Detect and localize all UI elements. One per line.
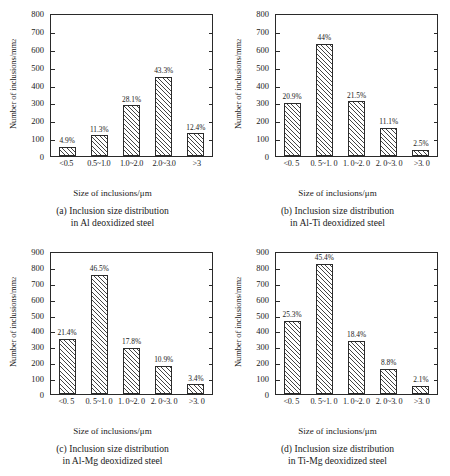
bar-data-label: 2.1% [413, 376, 428, 383]
y-tick-label: 600 [256, 295, 269, 304]
bar-data-label: 25.3% [283, 311, 302, 318]
x-tick-label: 2. 0~3. 0 [373, 159, 406, 168]
y-axis-label-text: Number of inclusions/mm [233, 42, 243, 129]
bar-series-a: 4.9%11.3%28.1%43.3%12.4% [51, 15, 212, 156]
bar-slot: 2.5% [405, 15, 437, 156]
bar [123, 348, 140, 394]
bar-slot: 3.4% [180, 253, 212, 394]
panel-caption-d: (d) Inclusion size distributionin Ti-Mg … [243, 443, 433, 468]
y-tick-label: 500 [256, 63, 269, 72]
y-tick-label: 0 [265, 153, 269, 162]
bar-series-c: 21.4%46.5%17.8%10.9%3.4% [51, 253, 212, 394]
plot-frame-c: 21.4%46.5%17.8%10.9%3.4% [50, 252, 213, 395]
bar-slot: 28.1% [115, 15, 147, 156]
bar-data-label: 11.1% [379, 118, 398, 125]
bar-slot: 12.4% [180, 15, 212, 156]
x-tick-labels-b: <0. 50. 5~1. 01. 0~2. 02. 0~3. 0>3. 0 [275, 159, 438, 168]
y-tick-label: 700 [31, 28, 44, 37]
caption-line-1: (c) Inclusion size distribution [18, 443, 208, 455]
bar-slot: 17.8% [115, 253, 147, 394]
plot-frame-a: 4.9%11.3%28.1%43.3%12.4% [50, 14, 213, 157]
y-tick-label: 500 [256, 311, 269, 320]
caption-line-1: (a) Inclusion size distribution [18, 205, 208, 217]
y-axis-label-superscript: 2 [235, 39, 242, 42]
bar [412, 386, 429, 394]
y-axis-label-d: Number of inclusions/mm2 [231, 248, 245, 396]
y-tick-label: 100 [31, 135, 44, 144]
y-tick-label: 900 [256, 248, 269, 257]
y-tick-label: 400 [256, 81, 269, 90]
y-tick-label: 400 [31, 81, 44, 90]
bar-slot: 43.3% [148, 15, 180, 156]
y-tick-label: 700 [256, 280, 269, 289]
bar [187, 133, 204, 156]
chart-area-a: Number of inclusions/mm20100200300400500… [10, 10, 215, 170]
bar [187, 384, 204, 394]
y-tick-label: 500 [31, 311, 44, 320]
y-tick-label: 300 [31, 343, 44, 352]
bar [412, 150, 429, 156]
bar-slot: 4.9% [51, 15, 83, 156]
bar [59, 147, 76, 156]
bar-slot: 20.9% [276, 15, 308, 156]
y-tick-label: 0 [40, 153, 44, 162]
chart-panel-d: Number of inclusions/mm20100200300400500… [225, 238, 450, 476]
bar-slot: 45.4% [308, 253, 340, 394]
y-tick-label: 300 [31, 99, 44, 108]
y-tick-label: 200 [31, 117, 44, 126]
bar [316, 44, 333, 156]
bar [284, 103, 301, 156]
figure-grid: Number of inclusions/mm20100200300400500… [0, 0, 450, 476]
bar-data-label: 12.4% [186, 124, 205, 131]
bar-data-label: 4.9% [59, 137, 74, 144]
y-tick-label: 700 [256, 28, 269, 37]
y-axis-label-c: Number of inclusions/mm2 [6, 248, 20, 396]
y-tick-labels-d: 0100200300400500600700800900 [249, 252, 273, 395]
caption-line-2: in Ti-Mg deoxidized steel [243, 455, 433, 467]
x-tick-label: 2. 0~3. 0 [373, 397, 406, 406]
x-tick-label: 0. 5~1. 0 [308, 159, 341, 168]
plot-frame-b: 20.9%44%21.5%11.1%2.5% [275, 14, 438, 157]
y-tick-label: 200 [31, 359, 44, 368]
x-tick-label: <0. 5 [275, 397, 308, 406]
bar-series-d: 25.3%45.4%18.4%8.8%2.1% [276, 253, 437, 394]
bar-slot: 44% [308, 15, 340, 156]
bar [91, 275, 108, 394]
x-tick-label: 2.0~3.0 [148, 159, 181, 168]
y-axis-label-text: Number of inclusions/mm [8, 42, 18, 129]
y-axis-label-a: Number of inclusions/mm2 [6, 10, 20, 158]
y-tick-label: 100 [256, 375, 269, 384]
bar [123, 105, 140, 156]
y-axis-label-text: Number of inclusions/mm [233, 280, 243, 367]
bar [284, 321, 301, 394]
caption-line-1: (d) Inclusion size distribution [243, 443, 433, 455]
x-axis-label-c: Size of inclusions/μm [73, 426, 151, 436]
panel-caption-c: (c) Inclusion size distributionin Al-Mg … [18, 443, 208, 468]
y-tick-label: 600 [256, 46, 269, 55]
y-tick-label: 200 [256, 359, 269, 368]
plot-wrapper-c: 010020030040050060070080090021.4%46.5%17… [24, 252, 213, 395]
x-tick-label: <0.5 [50, 159, 83, 168]
y-tick-label: 200 [256, 117, 269, 126]
y-tick-labels-b: 0100200300400500600700800 [249, 14, 273, 157]
bar-data-label: 3.4% [188, 375, 203, 382]
x-tick-labels-d: <0. 50. 5~1. 01. 0~2. 02. 0~3. 0>3. 0 [275, 397, 438, 406]
x-tick-label: >3. 0 [180, 397, 213, 406]
bar-series-b: 20.9%44%21.5%11.1%2.5% [276, 15, 437, 156]
y-tick-labels-a: 0100200300400500600700800 [24, 14, 48, 157]
y-tick-labels-c: 0100200300400500600700800900 [24, 252, 48, 395]
bar-slot: 21.5% [340, 15, 372, 156]
bar-slot: 10.9% [148, 253, 180, 394]
bar-data-label: 46.5% [90, 265, 109, 272]
x-tick-labels-a: <0.50.5~1.01.0~2.02.0~3.0>3 [50, 159, 213, 168]
bar [155, 77, 172, 156]
y-tick-label: 900 [31, 248, 44, 257]
y-tick-label: 0 [40, 391, 44, 400]
bar-data-label: 44% [318, 34, 332, 41]
y-tick-label: 800 [256, 264, 269, 273]
bar-data-label: 11.3% [90, 126, 109, 133]
chart-area-b: Number of inclusions/mm20100200300400500… [235, 10, 440, 170]
x-tick-label: 1. 0~2. 0 [115, 397, 148, 406]
bar-slot: 18.4% [340, 253, 372, 394]
y-tick-label: 300 [256, 343, 269, 352]
